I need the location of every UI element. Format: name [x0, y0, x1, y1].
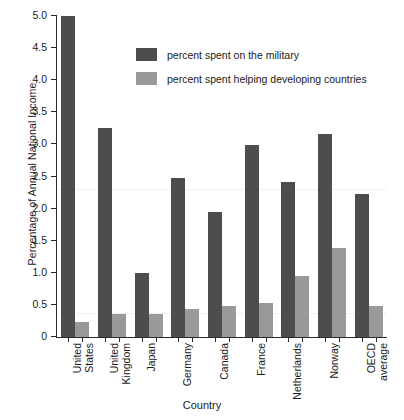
legend-item: percent spent on the military	[136, 46, 367, 63]
legend-label: percent spent helping developing countri…	[167, 73, 367, 85]
bar-military	[355, 194, 369, 337]
y-tick-label: 1.0	[0, 266, 47, 278]
x-tick-mark	[142, 338, 143, 342]
bar-aid	[75, 322, 89, 337]
x-tick-mark	[252, 338, 253, 342]
bar-aid	[222, 306, 236, 337]
x-tick-mark	[68, 338, 69, 342]
x-axis-title: Country	[0, 399, 404, 411]
bar-aid	[185, 309, 199, 337]
bar-chart: Percentage of Annual National Income 00.…	[0, 0, 404, 420]
bar-military	[98, 128, 112, 337]
bar-military	[61, 16, 75, 337]
x-tick-mark	[325, 338, 326, 342]
y-tick-label: 3.5	[0, 105, 47, 117]
x-tick-mark	[178, 338, 179, 342]
bar-aid	[332, 248, 346, 337]
x-tick-mark	[105, 338, 106, 342]
bar-aid	[112, 314, 126, 337]
legend-item: percent spent helping developing countri…	[136, 70, 367, 87]
x-tick-mark	[82, 338, 83, 342]
y-tick-label: 4.5	[0, 41, 47, 53]
y-tick-label: 3.0	[0, 137, 47, 149]
y-tick-label: 2.5	[0, 170, 47, 182]
bar-military	[135, 273, 149, 337]
y-tick-label: 5.0	[0, 9, 47, 21]
x-tick-mark	[215, 338, 216, 342]
x-tick-mark	[229, 338, 230, 342]
y-tick-label: 2.0	[0, 202, 47, 214]
legend: percent spent on the militarypercent spe…	[136, 46, 367, 94]
bar-aid	[295, 276, 309, 337]
y-tick-label: 1.5	[0, 234, 47, 246]
y-tick-label: 0	[0, 330, 47, 342]
bar-aid	[369, 306, 383, 337]
bar-military	[208, 212, 222, 337]
bar-military	[171, 178, 185, 337]
x-tick-mark	[302, 338, 303, 342]
x-tick-mark	[192, 338, 193, 342]
x-tick-mark	[156, 338, 157, 342]
x-tick-mark	[266, 338, 267, 342]
x-tick-mark	[288, 338, 289, 342]
bar-aid	[259, 303, 273, 337]
y-tick-label: 4.0	[0, 73, 47, 85]
x-tick-mark	[119, 338, 120, 342]
bar-aid	[149, 314, 163, 337]
y-tick-label: 0.5	[0, 298, 47, 310]
x-tick-mark	[376, 338, 377, 342]
bar-military	[318, 134, 332, 338]
bar-military	[245, 145, 259, 337]
x-tick-mark	[362, 338, 363, 342]
legend-swatch	[136, 72, 157, 85]
legend-swatch	[136, 48, 157, 61]
legend-label: percent spent on the military	[167, 49, 299, 61]
bar-military	[281, 182, 295, 337]
x-tick-mark	[339, 338, 340, 342]
